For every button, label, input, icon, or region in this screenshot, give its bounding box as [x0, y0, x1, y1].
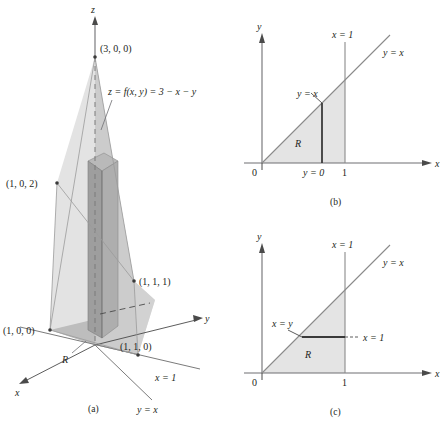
marker-point-1-1-0: [136, 353, 140, 357]
caption-panel-c: (c): [330, 407, 341, 418]
math-figure: z y x x = 1 y = x (3, 0, 0) (1, 0, 2): [0, 0, 448, 430]
y-axis-label: y: [204, 313, 210, 324]
label-y-equals-x-outer-c: y = x: [382, 257, 404, 268]
label-point-1-0-2: (1, 0, 2): [6, 178, 38, 190]
tick-label-one-b: 1: [342, 167, 347, 178]
marker-point-1-1-1: [132, 279, 136, 283]
label-point-3-0-0: (3, 0, 0): [100, 43, 132, 55]
label-x-equals-y-c: x = y: [271, 318, 293, 329]
marker-point-1-0-2: [55, 181, 59, 185]
label-y-equals-0-b: y = 0: [302, 167, 324, 178]
label-surface-equation: z = f(x, y) = 3 − x − y: [107, 86, 197, 98]
x-axis-label-b: x: [434, 158, 440, 169]
marker-point-1-0-0: [48, 328, 52, 332]
label-x-equals-1-top-c: x = 1: [331, 239, 353, 250]
line-x-equals-1-label: x = 1: [154, 372, 176, 383]
label-x-equals-1-b: x = 1: [331, 29, 353, 40]
label-region-r-3d: R: [61, 354, 68, 365]
y-axis-label-b: y: [256, 21, 262, 32]
label-point-1-1-0: (1, 1, 0): [120, 341, 152, 353]
label-x-equals-1-right-c: x = 1: [362, 332, 384, 343]
tick-label-one-c: 1: [342, 377, 347, 388]
origin-label-b: 0: [252, 167, 257, 178]
caption-panel-a: (a): [88, 404, 99, 415]
z-axis-label: z: [90, 4, 95, 15]
marker-point-3-0-0: [93, 55, 97, 59]
x-axis-label-c: x: [434, 368, 440, 379]
label-point-1-0-0: (1, 0, 0): [3, 325, 35, 337]
label-y-equals-x-outer-b: y = x: [382, 47, 404, 58]
line-y-equals-x-label: y = x: [136, 404, 158, 415]
label-point-1-1-1: (1, 1, 1): [139, 276, 171, 288]
x-axis-label: x: [14, 387, 20, 398]
label-region-r-c: R: [304, 349, 311, 360]
label-y-equals-x-inner-b: y = x: [296, 88, 318, 99]
y-axis-label-c: y: [256, 231, 262, 242]
origin-label-c: 0: [252, 377, 257, 388]
caption-panel-b: (b): [330, 197, 341, 208]
label-region-r-b: R: [294, 138, 301, 149]
